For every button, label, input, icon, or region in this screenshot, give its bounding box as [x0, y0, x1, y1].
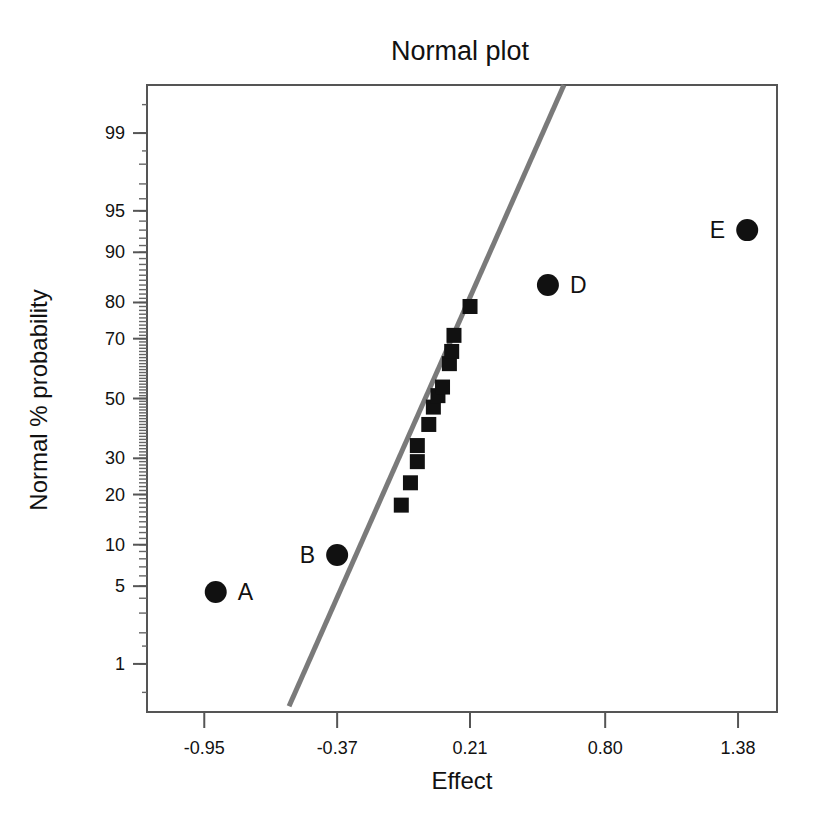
- x-axis-title: Effect: [432, 767, 493, 794]
- square-marker: [446, 328, 461, 343]
- chart-title: Normal plot: [391, 36, 530, 66]
- y-tick-label-70: 70: [105, 329, 125, 349]
- square-marker: [394, 498, 409, 513]
- normal-plot-figure: Normal plot 99959080705030201051 -0.95-0…: [0, 0, 816, 819]
- square-marker: [410, 438, 425, 453]
- y-tick-label-1: 1: [115, 654, 125, 674]
- circle-marker-B: [326, 544, 348, 566]
- y-tick-label-10: 10: [105, 535, 125, 555]
- square-marker: [410, 454, 425, 469]
- circle-marker-D: [537, 274, 559, 296]
- y-tick-label-20: 20: [105, 485, 125, 505]
- point-label-B: B: [300, 542, 315, 568]
- square-marker: [444, 344, 459, 359]
- point-label-E: E: [710, 217, 725, 243]
- square-marker: [435, 380, 450, 395]
- y-tick-label-95: 95: [105, 201, 125, 221]
- x-tick-label-0.21: 0.21: [452, 738, 487, 758]
- point-label-A: A: [238, 579, 254, 605]
- circle-marker-A: [205, 581, 227, 603]
- square-marker: [463, 299, 478, 314]
- y-tick-label-50: 50: [105, 389, 125, 409]
- plot-canvas: Normal plot 99959080705030201051 -0.95-0…: [0, 0, 816, 819]
- x-tick-label-1.38: 1.38: [721, 738, 756, 758]
- y-tick-label-30: 30: [105, 448, 125, 468]
- point-label-D: D: [570, 272, 587, 298]
- x-tick-label--0.37: -0.37: [317, 738, 358, 758]
- y-tick-label-90: 90: [105, 242, 125, 262]
- y-tick-label-99: 99: [105, 123, 125, 143]
- x-tick-label--0.95: -0.95: [184, 738, 225, 758]
- x-tick-label-0.80: 0.80: [588, 738, 623, 758]
- square-marker: [421, 417, 436, 432]
- square-marker: [403, 475, 418, 490]
- y-tick-label-5: 5: [115, 576, 125, 596]
- y-tick-label-80: 80: [105, 292, 125, 312]
- y-axis-title: Normal % probability: [25, 289, 52, 510]
- circle-marker-E: [736, 219, 758, 241]
